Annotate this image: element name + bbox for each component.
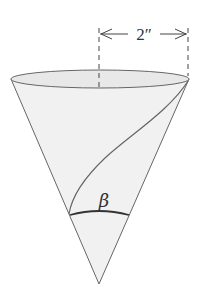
cone-rim bbox=[11, 70, 189, 88]
dimension-label: 2″ bbox=[136, 25, 152, 44]
angle-label: β bbox=[98, 190, 109, 211]
cone-diagram: 2″ β bbox=[0, 0, 200, 297]
